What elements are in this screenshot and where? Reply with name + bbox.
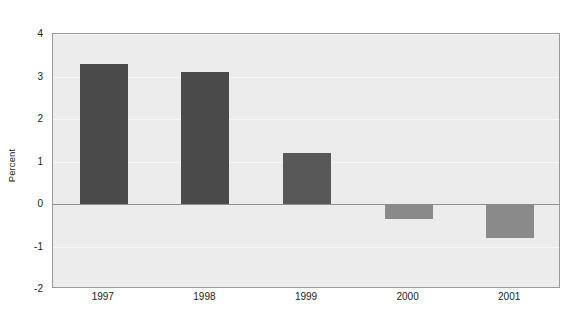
bars-layer <box>53 34 559 287</box>
y-tick-label: 4 <box>37 28 43 39</box>
y-tick-label: -2 <box>34 283 43 294</box>
y-tick-label: 2 <box>37 113 43 124</box>
x-tick-label: 2001 <box>498 291 520 302</box>
y-tick-label: 1 <box>37 155 43 166</box>
plot-area <box>52 33 560 288</box>
x-tick-label: 1999 <box>295 291 317 302</box>
x-tick-label: 2000 <box>396 291 418 302</box>
bar-chart: Percent 43210-1-2 19971998199920002001 <box>0 0 581 331</box>
x-tick-label: 1998 <box>193 291 215 302</box>
bar <box>283 153 331 204</box>
y-tick-label: 0 <box>37 198 43 209</box>
y-tick-label: -1 <box>34 240 43 251</box>
x-tick-label: 1997 <box>92 291 114 302</box>
x-axis-tick-labels: 19971998199920002001 <box>52 291 560 311</box>
y-axis-title-label: Percent <box>7 149 18 182</box>
bar <box>385 204 433 219</box>
bar <box>486 204 534 238</box>
y-tick-label: 3 <box>37 70 43 81</box>
y-axis-title: Percent <box>0 0 24 331</box>
y-axis-tick-labels: 43210-1-2 <box>24 33 48 288</box>
bar <box>80 64 128 204</box>
bar <box>181 72 229 204</box>
